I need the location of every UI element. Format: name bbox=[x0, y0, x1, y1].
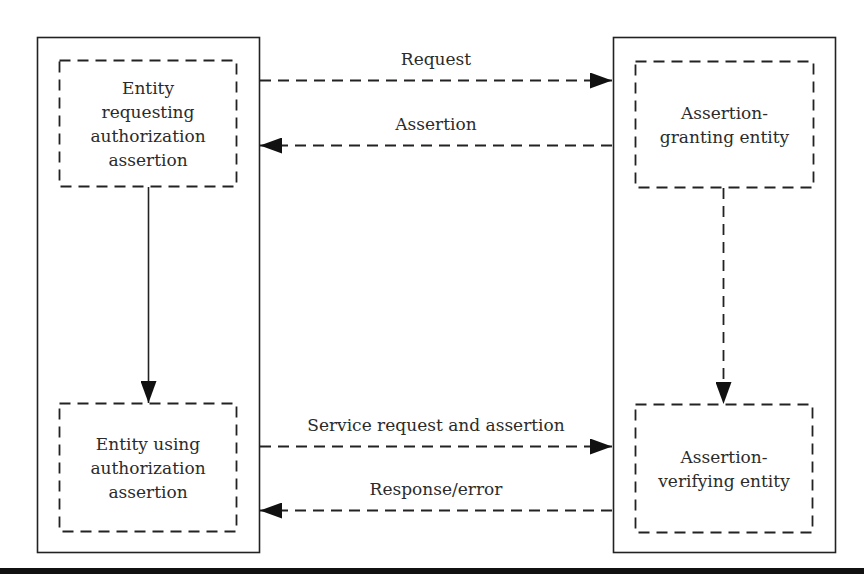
user-label-text: Entity using authorization assertion bbox=[90, 432, 205, 504]
response-error-label: Response/error bbox=[260, 477, 612, 501]
granter-label-text: Assertion- granting entity bbox=[660, 101, 789, 149]
requester-label: Entity requesting authorization assertio… bbox=[60, 61, 236, 187]
verifier-label-text: Assertion- verifying entity bbox=[658, 445, 790, 493]
service-request-label: Service request and assertion bbox=[260, 413, 612, 437]
request-label: Request bbox=[260, 47, 612, 71]
user-label: Entity using authorization assertion bbox=[60, 404, 236, 531]
bottom-rule bbox=[0, 568, 864, 574]
requester-label-text: Entity requesting authorization assertio… bbox=[90, 76, 205, 172]
granter-label: Assertion- granting entity bbox=[636, 62, 813, 187]
verifier-label: Assertion- verifying entity bbox=[636, 405, 812, 532]
assertion-label: Assertion bbox=[260, 112, 612, 136]
